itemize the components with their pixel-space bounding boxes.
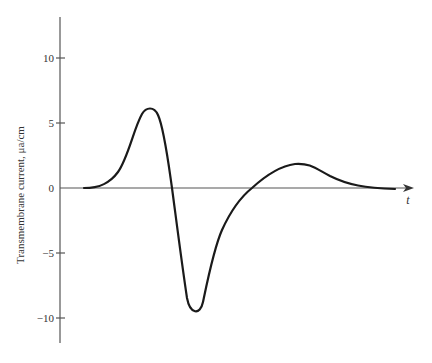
tick-label-0: 0 — [49, 182, 55, 194]
tick-label-5: 5 — [49, 117, 55, 129]
tick-label-10: 10 — [43, 52, 55, 64]
waveform-curve — [84, 109, 395, 312]
x-axis-label: t — [406, 193, 410, 207]
current-waveform-chart: 10 5 0 −5 −10 Transmembrane current, μa/… — [0, 0, 432, 363]
tick-label-minus-5: −5 — [42, 247, 54, 259]
tick-label-minus-10: −10 — [37, 312, 55, 324]
y-axis-label: Transmembrane current, μa/cm — [14, 126, 26, 264]
